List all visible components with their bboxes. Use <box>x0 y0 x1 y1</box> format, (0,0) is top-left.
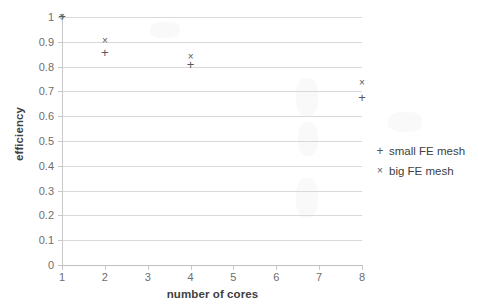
gridline <box>62 215 362 216</box>
x-tick-label: 3 <box>138 272 158 283</box>
y-tick-label: 1 <box>48 12 54 23</box>
gridline <box>62 240 362 241</box>
y-tick-label: 0.8 <box>39 62 54 73</box>
chart-legend: +small FE mesh×big FE mesh <box>374 141 478 181</box>
y-axis-title: efficiency <box>13 94 25 174</box>
x-axis-title: number of cores <box>62 288 363 300</box>
x-tick-label: 1 <box>52 272 72 283</box>
x-tick-mark <box>233 266 234 270</box>
legend-entry: ×big FE mesh <box>374 161 478 181</box>
efficiency-scatter-chart: 00.10.20.30.40.50.60.70.80.91 12345678 +… <box>0 0 478 306</box>
y-tick-mark <box>58 91 62 92</box>
x-tick-mark <box>148 266 149 270</box>
data-point-marker: × <box>184 51 198 63</box>
x-tick-mark <box>276 266 277 270</box>
y-tick-mark <box>58 17 62 18</box>
gridline <box>62 191 362 192</box>
x-tick-label: 6 <box>266 272 286 283</box>
legend-entry: +small FE mesh <box>374 141 478 161</box>
x-tick-label: 2 <box>95 272 115 283</box>
legend-label: small FE mesh <box>389 145 465 158</box>
y-axis-line <box>62 17 63 266</box>
x-axis-line <box>62 265 363 266</box>
data-point-marker: + <box>355 92 369 104</box>
data-point-marker: + <box>98 47 112 59</box>
y-tick-label: 0 <box>48 260 54 271</box>
x-tick-mark <box>191 266 192 270</box>
gridline <box>62 166 362 167</box>
x-tick-label: 7 <box>309 272 329 283</box>
x-tick-label: 4 <box>181 272 201 283</box>
gridline <box>62 91 362 92</box>
cross-marker-icon: × <box>374 165 386 177</box>
gridline <box>62 141 362 142</box>
y-tick-mark <box>58 141 62 142</box>
gridline <box>62 116 362 117</box>
x-tick-label: 5 <box>223 272 243 283</box>
y-tick-mark <box>58 215 62 216</box>
x-tick-mark <box>62 266 63 270</box>
gridline <box>62 67 362 68</box>
y-tick-mark <box>58 191 62 192</box>
y-axis-tick-labels: 00.10.20.30.40.50.60.70.80.91 <box>0 0 54 306</box>
y-tick-mark <box>58 240 62 241</box>
plus-marker-icon: + <box>374 145 386 157</box>
data-point-marker: × <box>98 35 112 47</box>
x-tick-mark <box>105 266 106 270</box>
legend-label: big FE mesh <box>389 165 454 178</box>
gridline <box>62 17 362 18</box>
y-tick-label: 0.3 <box>39 186 54 197</box>
y-tick-label: 0.1 <box>39 235 54 246</box>
x-tick-label: 8 <box>352 272 372 283</box>
x-tick-mark <box>362 266 363 270</box>
y-tick-label: 0.5 <box>39 136 54 147</box>
y-tick-mark <box>58 265 62 266</box>
y-tick-mark <box>58 42 62 43</box>
y-tick-label: 0.6 <box>39 111 54 122</box>
x-tick-mark <box>319 266 320 270</box>
y-tick-label: 0.9 <box>39 37 54 48</box>
y-tick-label: 0.2 <box>39 210 54 221</box>
y-tick-mark <box>58 166 62 167</box>
y-tick-mark <box>58 67 62 68</box>
data-point-marker: × <box>355 77 369 89</box>
y-tick-label: 0.7 <box>39 86 54 97</box>
y-tick-mark <box>58 116 62 117</box>
scan-artifact <box>388 112 422 132</box>
y-tick-label: 0.4 <box>39 161 54 172</box>
